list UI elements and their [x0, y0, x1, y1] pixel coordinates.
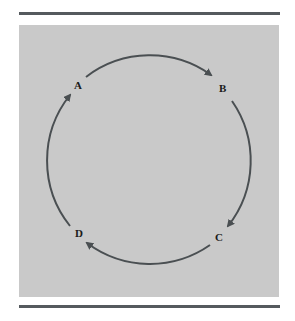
bottom-rule — [19, 305, 280, 308]
arrow-d-to-a — [47, 95, 70, 226]
node-label-d: D — [75, 227, 83, 239]
arrow-a-to-b — [86, 55, 211, 77]
arrow-c-to-d — [87, 243, 210, 264]
node-label-a: A — [74, 79, 82, 91]
node-label-c: C — [215, 231, 223, 243]
cycle-diagram: A B C D — [0, 0, 295, 321]
arrow-b-to-c — [228, 101, 251, 226]
node-label-b: B — [219, 82, 227, 94]
